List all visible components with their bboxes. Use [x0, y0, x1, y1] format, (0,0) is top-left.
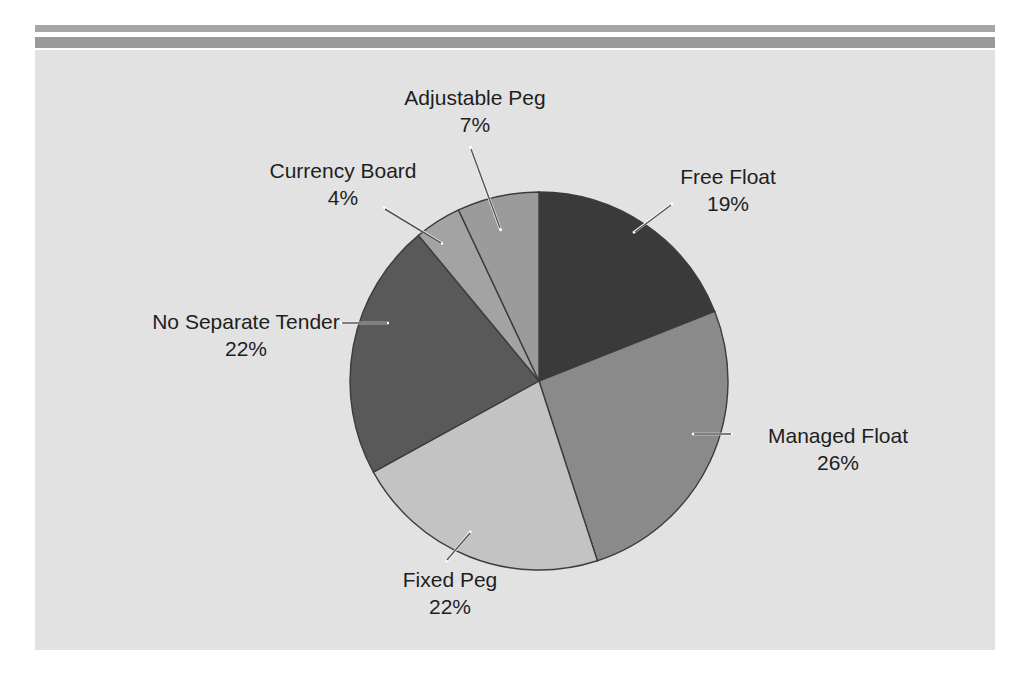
pie-label-free-float-name: Free Float	[680, 165, 776, 188]
pie-label-currency-board-percent: 4%	[254, 184, 432, 211]
pie-label-managed-float-name: Managed Float	[768, 424, 908, 447]
pie-label-no-separate-tender-percent: 22%	[130, 335, 362, 362]
pie-slice-group	[350, 192, 728, 570]
pie-label-no-separate-tender-name: No Separate Tender	[152, 310, 340, 333]
pie-label-currency-board: Currency Board 4%	[254, 157, 432, 211]
pie-label-currency-board-name: Currency Board	[269, 159, 416, 182]
pie-label-adjustable-peg: Adjustable Peg 7%	[392, 84, 558, 138]
pie-label-free-float-percent: 19%	[648, 190, 808, 217]
pie-label-adjustable-peg-name: Adjustable Peg	[404, 86, 545, 109]
pie-label-fixed-peg-percent: 22%	[372, 593, 528, 620]
pie-label-fixed-peg-name: Fixed Peg	[403, 568, 498, 591]
figure-root: Adjustable Peg 7% Currency Board 4% No S…	[0, 0, 1024, 681]
pie-label-managed-float: Managed Float 26%	[740, 422, 936, 476]
pie-label-fixed-peg: Fixed Peg 22%	[372, 566, 528, 620]
pie-label-adjustable-peg-percent: 7%	[392, 111, 558, 138]
pie-label-free-float: Free Float 19%	[648, 163, 808, 217]
pie-label-managed-float-percent: 26%	[740, 449, 936, 476]
pie-label-no-separate-tender: No Separate Tender 22%	[130, 308, 362, 362]
